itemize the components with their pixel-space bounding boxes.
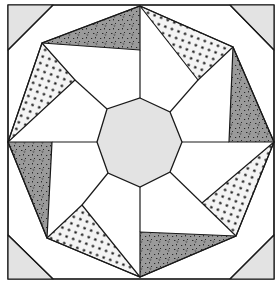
- quilt-block-diagram: [0, 0, 280, 286]
- figure-caption: [0, 279, 280, 286]
